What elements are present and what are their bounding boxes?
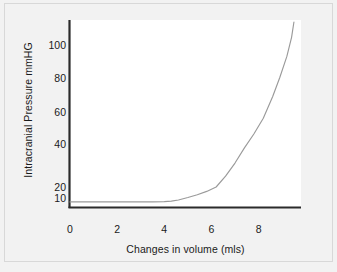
x-tick-label: 8: [247, 224, 271, 235]
x-tick-labels: 02468: [0, 224, 337, 240]
x-tick-label: 4: [152, 224, 176, 235]
y-tick-label: 40: [32, 139, 66, 149]
data-series-line: [70, 22, 294, 202]
y-tick-label: 80: [32, 73, 66, 83]
chart-figure: 1020406080100 02468 Intracranial Pressur…: [0, 0, 337, 272]
y-axis-title: Intracranial Pressure mmHG: [22, 30, 34, 190]
x-tick-label: 2: [105, 224, 129, 235]
y-tick-label: 100: [32, 40, 66, 50]
y-tick-label: 20: [32, 182, 66, 192]
x-tick-label: 6: [199, 224, 223, 235]
x-tick-label: 0: [58, 224, 82, 235]
y-tick-label: 10: [32, 193, 66, 203]
x-axis-title: Changes in volume (mls): [70, 243, 301, 255]
y-tick-label: 60: [32, 107, 66, 117]
